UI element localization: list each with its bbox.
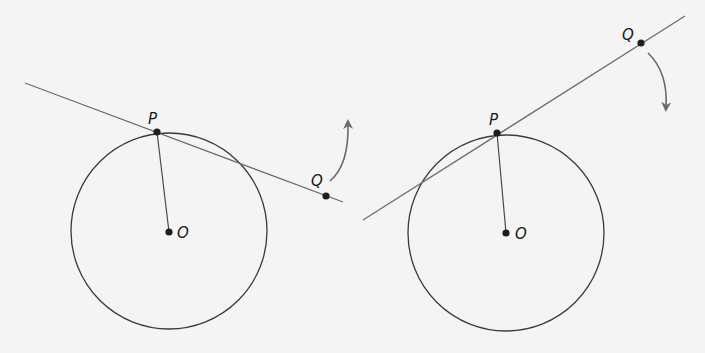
left-secant-line: [25, 83, 343, 202]
left-label-q: Q: [311, 172, 323, 190]
right-figure: P Q O: [363, 16, 685, 331]
right-point-o: [502, 229, 509, 236]
right-radius-op: [497, 133, 506, 233]
left-point-p: [153, 128, 160, 135]
left-label-o: O: [177, 224, 189, 242]
left-point-q: [322, 192, 329, 199]
left-figure: P Q O: [25, 83, 348, 329]
left-point-o: [165, 228, 172, 235]
tangent-secant-diagram: P Q O P Q O: [0, 0, 705, 353]
right-point-p: [493, 129, 500, 136]
right-label-o: O: [515, 225, 527, 243]
left-label-p: P: [148, 110, 158, 128]
right-label-p: P: [489, 111, 499, 129]
right-point-q: [637, 39, 644, 46]
left-radius-op: [157, 132, 169, 232]
right-rotation-arrow-icon: [648, 53, 666, 107]
diagram-canvas: P Q O P Q O: [0, 0, 705, 353]
right-label-q: Q: [622, 26, 634, 44]
left-rotation-arrow-icon: [330, 124, 348, 181]
right-secant-line: [363, 16, 685, 220]
